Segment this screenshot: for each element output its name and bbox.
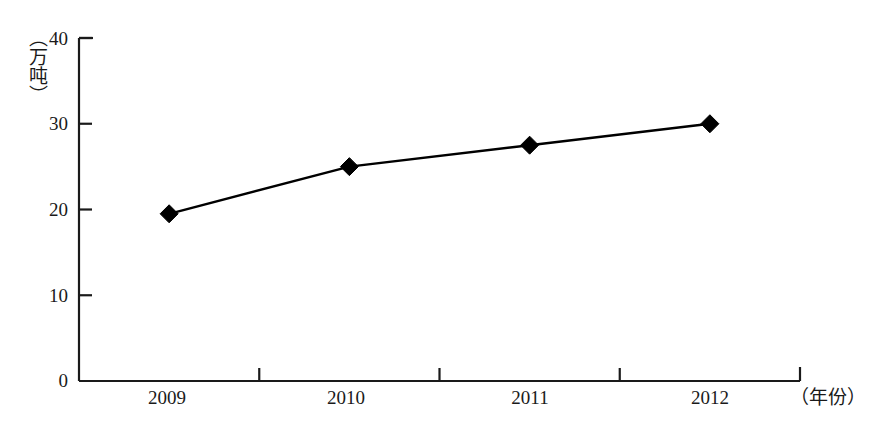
x-tick-label-2011: 2011 (470, 388, 590, 407)
x-tick-label-2009: 2009 (107, 388, 227, 407)
x-tick-label-2012: 2012 (650, 388, 770, 407)
y-tick-label-30: 30 (20, 114, 68, 133)
y-tick-label-20: 20 (20, 200, 68, 219)
x-axis-title: （年份） (790, 388, 866, 407)
y-tick-label-40: 40 (20, 29, 68, 48)
y-tick-label-0: 0 (20, 371, 68, 390)
line-chart: （万吨） （年份） 40 30 20 10 0 2009 2010 2011 2… (0, 0, 880, 438)
x-tick-label-2010: 2010 (286, 388, 406, 407)
chart-plot-area (0, 0, 880, 438)
y-tick-label-10: 10 (20, 286, 68, 305)
